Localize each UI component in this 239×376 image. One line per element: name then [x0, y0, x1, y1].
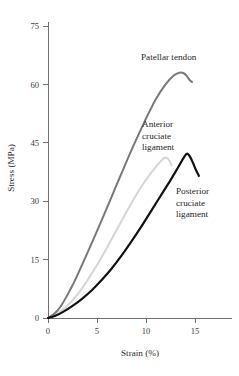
x-tick-label: 15	[191, 326, 200, 336]
y-tick-label: 60	[30, 80, 39, 90]
annotation-line: ligament	[176, 209, 209, 219]
annotation-line: Posterior	[176, 186, 209, 196]
series-annotations: Patellar tendonAnteriorcruciateligamentP…	[141, 52, 209, 219]
y-axis-group: 01530456075	[30, 21, 48, 323]
x-axis-ticks: 051015	[46, 318, 199, 336]
annotation-patellar-tendon: Patellar tendon	[141, 52, 197, 62]
y-tick-label: 75	[30, 21, 39, 31]
y-axis-title: Stress (MPa)	[6, 144, 16, 192]
curve-anterior-cruciate-ligament	[48, 157, 171, 318]
annotation-line: cruciate	[176, 198, 205, 208]
y-tick-label: 30	[30, 196, 39, 206]
annotation-line: Patellar tendon	[141, 52, 197, 62]
annotation-posterior-cruciate-ligament: Posteriorcruciateligament	[176, 186, 209, 219]
chart-canvas: 01530456075 051015 Patellar tendonAnteri…	[0, 0, 239, 376]
curve-patellar-tendon	[48, 73, 192, 318]
y-axis-ticks: 01530456075	[30, 21, 48, 323]
annotation-line: Anterior	[142, 119, 173, 129]
x-tick-label: 10	[142, 326, 151, 336]
x-axis-title: Strain (%)	[121, 348, 159, 358]
curve-posterior-cruciate-ligament	[48, 154, 199, 318]
x-tick-label: 5	[95, 326, 99, 336]
y-tick-label: 0	[35, 313, 39, 323]
x-axis-group: 051015	[46, 318, 232, 336]
annotation-line: ligament	[142, 142, 175, 152]
annotation-anterior-cruciate-ligament: Anteriorcruciateligament	[142, 119, 175, 152]
y-tick-label: 15	[30, 255, 39, 265]
stress-strain-chart: 01530456075 051015 Patellar tendonAnteri…	[0, 0, 239, 376]
annotation-line: cruciate	[142, 131, 171, 141]
x-tick-label: 0	[46, 326, 50, 336]
y-tick-label: 45	[30, 138, 39, 148]
